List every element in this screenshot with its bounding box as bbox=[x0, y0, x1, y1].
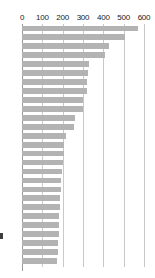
bar bbox=[22, 222, 59, 228]
bar bbox=[22, 34, 125, 40]
bar bbox=[22, 70, 88, 76]
bar bbox=[22, 106, 83, 112]
bar bbox=[22, 249, 58, 255]
bar bbox=[22, 204, 60, 210]
bar bbox=[22, 195, 60, 201]
bar bbox=[22, 52, 105, 58]
bar-series bbox=[0, 24, 155, 271]
bar bbox=[22, 178, 61, 184]
bar bbox=[22, 79, 87, 85]
x-tick-label: 500 bbox=[117, 11, 130, 24]
bar bbox=[22, 88, 87, 94]
x-tick-label: 200 bbox=[56, 11, 69, 24]
x-tick-label: 0 bbox=[20, 11, 24, 24]
x-tick-label: 300 bbox=[77, 11, 90, 24]
horizontal-bar-chart: 0100200300400500600 bbox=[0, 0, 155, 278]
bar bbox=[22, 133, 66, 139]
bar bbox=[22, 151, 64, 157]
bar bbox=[22, 187, 61, 193]
bar bbox=[22, 124, 74, 130]
bar bbox=[22, 115, 75, 121]
bar bbox=[22, 231, 59, 237]
bar bbox=[22, 160, 63, 166]
x-tick-label: 100 bbox=[36, 11, 49, 24]
bar bbox=[22, 213, 59, 219]
x-tick-label: 600 bbox=[138, 11, 151, 24]
x-axis-tick-labels: 0100200300400500600 bbox=[0, 11, 155, 24]
bar bbox=[22, 43, 109, 49]
bar bbox=[22, 169, 62, 175]
bar bbox=[22, 258, 57, 264]
bar bbox=[22, 142, 64, 148]
left-edge-marker bbox=[0, 233, 3, 239]
bar bbox=[22, 61, 89, 67]
x-tick-label: 400 bbox=[97, 11, 110, 24]
plot-area bbox=[0, 24, 155, 271]
bar bbox=[22, 97, 83, 103]
bar bbox=[22, 26, 138, 32]
bar bbox=[22, 240, 58, 246]
